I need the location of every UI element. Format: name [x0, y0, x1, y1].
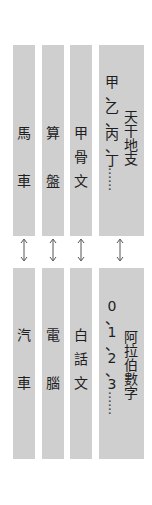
- label-heavenly-stems: 天 干 地 支: [123, 110, 139, 166]
- double-arrow-icon: [76, 238, 86, 262]
- char: 骨: [74, 149, 88, 165]
- char: 盤: [46, 173, 60, 189]
- label-horse-cart: 馬 車: [13, 125, 35, 189]
- label-oracle-bone-script: 甲 骨 文: [70, 125, 92, 189]
- char: 汽: [17, 327, 31, 343]
- char: 拉: [124, 344, 138, 358]
- char: 馬: [17, 125, 31, 141]
- char: 算: [46, 125, 60, 141]
- char: 丁: [105, 154, 119, 167]
- char: 話: [74, 351, 88, 367]
- ellipsis: …: [106, 179, 119, 191]
- ellipsis: …: [106, 391, 119, 403]
- char: 支: [124, 152, 138, 166]
- label-heavenly-stems-examples: 甲 、 乙 、 丙 、 丁 … …: [104, 76, 120, 191]
- double-arrow-icon: [115, 238, 125, 262]
- char: 車: [17, 173, 31, 189]
- label-arabic-numerals-examples: 0 、 1 、 2 、 3 … …: [104, 300, 120, 415]
- char: 伯: [124, 358, 138, 372]
- char: 天: [124, 110, 138, 124]
- char: 文: [74, 375, 88, 391]
- char: 電: [46, 327, 60, 343]
- label-arabic-numerals: 阿 拉 伯 數 字: [123, 330, 139, 400]
- label-automobile: 汽 車: [13, 327, 35, 391]
- char: 3: [108, 378, 117, 391]
- char: 地: [124, 138, 138, 152]
- label-computer: 電 腦: [42, 327, 64, 391]
- char: 車: [17, 375, 31, 391]
- char: 字: [124, 386, 138, 400]
- ellipsis: …: [106, 167, 119, 179]
- char: 數: [124, 372, 138, 386]
- char: 腦: [46, 375, 60, 391]
- char: 阿: [124, 330, 138, 344]
- char: 干: [124, 124, 138, 138]
- double-arrow-icon: [48, 238, 58, 262]
- label-vernacular-chinese: 白 話 文: [70, 327, 92, 391]
- char: 白: [74, 327, 88, 343]
- char: 文: [74, 173, 88, 189]
- label-abacus: 算 盤: [42, 125, 64, 189]
- double-arrow-icon: [19, 238, 29, 262]
- char: 甲: [74, 125, 88, 141]
- ellipsis: …: [106, 403, 119, 415]
